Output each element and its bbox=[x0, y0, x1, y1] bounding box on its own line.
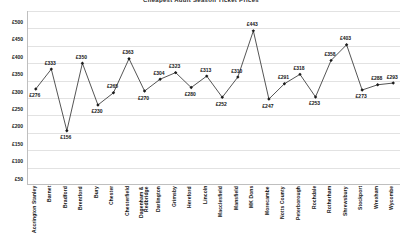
data-point-label: £156 bbox=[60, 135, 71, 140]
data-point-label: £403 bbox=[340, 36, 351, 41]
data-point-label: £313 bbox=[200, 68, 211, 73]
y-axis-tick-label: £300 bbox=[12, 89, 23, 94]
data-point-label: £280 bbox=[185, 92, 196, 97]
y-axis-labels: £500£450£400£350£300£250£200£150£100£50 bbox=[0, 11, 25, 185]
data-point-label: £230 bbox=[91, 109, 102, 114]
data-point-marker bbox=[127, 57, 130, 60]
x-axis-category-label: Chester bbox=[110, 186, 115, 244]
x-axis-category-label: Bury bbox=[94, 186, 99, 244]
data-point-label: £363 bbox=[122, 50, 133, 55]
data-point-marker bbox=[376, 83, 379, 86]
series-markers bbox=[34, 29, 395, 132]
data-point-marker bbox=[65, 129, 68, 132]
data-point-label: £323 bbox=[169, 64, 180, 69]
x-axis-category-label: Chesterfield bbox=[125, 186, 130, 244]
data-point-label: £304 bbox=[154, 71, 165, 76]
x-axis-category-label: Accrington Stanley bbox=[32, 186, 37, 244]
x-axis-category-label: Wrexham bbox=[374, 186, 379, 244]
x-axis-category-label: Hereford bbox=[187, 186, 192, 244]
data-point-marker bbox=[252, 29, 255, 32]
chart-root: Cheapest Adult Season Ticket Prices £500… bbox=[0, 0, 402, 246]
x-axis-category-label: Wycombe bbox=[390, 186, 395, 244]
data-point-label: £443 bbox=[247, 22, 258, 27]
data-point-label: £265 bbox=[107, 84, 118, 89]
x-axis-category-label: Rotherham bbox=[327, 186, 332, 244]
data-point-label: £273 bbox=[356, 94, 367, 99]
y-axis-tick-label: £500 bbox=[12, 20, 23, 25]
x-axis-category-label: Stockport bbox=[358, 186, 363, 244]
data-point-label: £358 bbox=[325, 52, 336, 57]
y-axis-tick-label: £350 bbox=[12, 72, 23, 77]
data-point-label: £291 bbox=[278, 75, 289, 80]
data-point-label: £318 bbox=[293, 66, 304, 71]
x-axis-labels: Accrington StanleyBarnetBradfordBrentfor… bbox=[27, 186, 400, 246]
y-axis-tick-label: £250 bbox=[12, 107, 23, 112]
data-point-label: £310 bbox=[231, 69, 242, 74]
y-axis-tick-label: £400 bbox=[12, 54, 23, 59]
x-axis-category-label: Rochdale bbox=[312, 186, 317, 244]
y-axis-tick-label: £200 bbox=[12, 124, 23, 129]
x-axis-category-label: Brentford bbox=[79, 186, 84, 244]
x-axis-category-label: Macclesfield bbox=[219, 186, 224, 244]
y-axis-tick-label: £150 bbox=[12, 141, 23, 146]
x-axis-category-label: Notts County bbox=[281, 186, 286, 244]
x-axis-category-label: Bradford bbox=[63, 186, 68, 244]
x-axis-category-label: Grimsby bbox=[172, 186, 177, 244]
chart-title: Cheapest Adult Season Ticket Prices bbox=[0, 0, 402, 4]
y-axis-tick-label: £450 bbox=[12, 37, 23, 42]
x-axis-category-label: Shrewsbury bbox=[343, 186, 348, 244]
x-axis-category-label: Barnet bbox=[48, 186, 53, 244]
data-point-label: £270 bbox=[138, 96, 149, 101]
data-point-marker bbox=[81, 62, 84, 65]
x-axis-category-label: Darlington bbox=[156, 186, 161, 244]
data-point-label: £350 bbox=[76, 55, 87, 60]
y-axis-tick-label: £100 bbox=[12, 159, 23, 164]
data-point-label: £333 bbox=[45, 61, 56, 66]
data-point-label: £247 bbox=[262, 104, 273, 109]
x-axis-category-label: Lincoln bbox=[203, 186, 208, 244]
series-path bbox=[36, 31, 393, 131]
data-point-marker bbox=[392, 81, 395, 84]
data-point-label: £252 bbox=[216, 102, 227, 107]
data-point-label: £253 bbox=[309, 101, 320, 106]
y-axis-tick-label: £50 bbox=[15, 176, 23, 181]
data-point-label: £293 bbox=[387, 75, 398, 80]
x-axis-category-label: Peterborough bbox=[296, 186, 301, 244]
x-axis-category-label: Morecambe bbox=[265, 186, 270, 244]
data-point-label: £276 bbox=[29, 93, 40, 98]
data-point-marker bbox=[360, 88, 363, 91]
x-axis-category-label: MK Dons bbox=[250, 186, 255, 244]
x-axis-category-label: Dagenham & Redbridge bbox=[138, 186, 149, 244]
x-axis-category-label: Mansfield bbox=[234, 186, 239, 244]
data-point-label: £288 bbox=[371, 76, 382, 81]
